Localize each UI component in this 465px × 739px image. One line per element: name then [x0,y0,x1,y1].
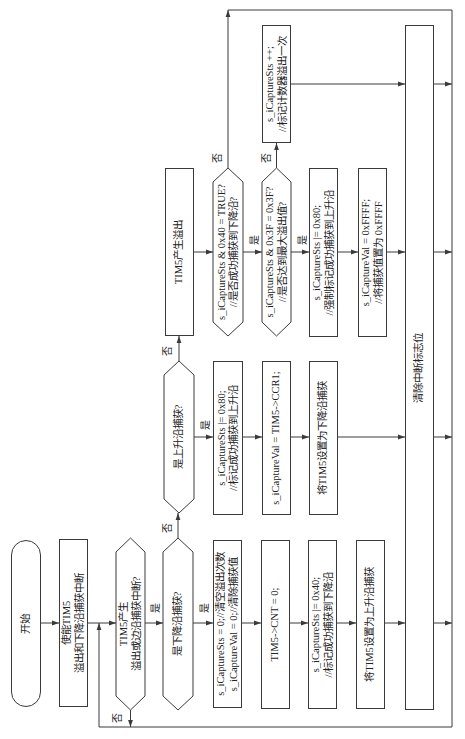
node-text: 将TIM5设置为下降沿捕获 [317,381,330,496]
node-text: TIM5->CNT = 0; [269,587,282,661]
node-reset-values: s_iCaptureSts = 0;//清空溢出次数 s_iCaptureVal… [213,540,242,708]
edge-label-no: 否 [212,152,224,164]
node-text: s_iCaptureVal = TIM5->CCR1; [270,371,283,505]
node-text: //标记计数器溢出一次 [277,36,290,132]
node-text: 清除中断标志位 [413,333,426,403]
edge-label-no: 否 [162,345,174,357]
node-set-falling: 将TIM5设置为下降沿捕获 [309,361,338,515]
edge-label-yes: 是 [297,234,309,246]
node-text: 溢出和下降沿捕获中断 [74,573,87,673]
node-text: 是下降沿捕获? [172,592,185,657]
node-mark-rising: s_iCaptureSts |= 0x80; //标记成功捕获到上升沿 [213,361,243,515]
edge-label-yes: 是 [150,602,162,614]
node-text: s_iCaptureSts & 0x40 = TRUE? [216,184,229,320]
node-increment-overflow: s_iCaptureSts ++; //标记计数器溢出一次 [262,25,291,143]
node-clear-flag: 清除中断标志位 [405,25,434,710]
node-text: //标记成功捕获到上升沿 [228,385,241,491]
node-text: s_iCaptureSts = 0;//清空溢出次数 [215,552,228,696]
node-start: 开始 [11,540,41,707]
edge-label-yes: 是 [199,602,211,614]
node-set-rising: 将TIM5设置为上升沿捕获 [356,540,385,709]
node-force-rising: s_iCaptureSts |= 0x80; //强制标记成功捕获到上升沿 [309,168,338,337]
flowchart-canvas: 开始 使能TIM5 溢出和下降沿捕获中断 TIM5产生 溢出或边沿捕获中断? 是… [0,0,465,739]
node-text: s_iCaptureSts |= 0x80; [311,205,324,301]
node-text: s_iCaptureSts |= 0x40; [310,577,323,673]
decision-irq-occurred: TIM5产生 溢出或边沿捕获中断? [116,538,145,710]
node-text: s_iCaptureSts ++; [264,46,277,122]
node-text: //标记成功捕获到下降沿 [323,572,336,678]
node-enable-interrupts: 使能TIM5 溢出和下降沿捕获中断 [59,539,88,707]
node-text: s_iCaptureVal = 0xFFFF; [360,199,373,306]
node-text: 使能TIM5 [61,601,74,646]
node-reset-counter: TIM5->CNT = 0; [261,540,290,709]
node-text: 将TIM5设置为上升沿捕获 [364,567,377,682]
node-text: 是上升沿捕获? [173,405,186,470]
decision-is-rising-edge: 是上升沿捕获? [164,361,194,513]
decision-check-falling-captured: s_iCaptureSts & 0x40 = TRUE? //是否成功捕获到下降… [213,168,243,336]
node-read-ccr1: s_iCaptureVal = TIM5->CCR1; [262,361,291,515]
node-text: //是否成功捕获到下降沿? [228,197,241,308]
node-text: //是否达到最大溢出值? [277,202,290,303]
node-overflow: TIM5产生溢出 [165,168,194,336]
node-text: s_iCaptureVal = 0;//清除捕获值 [228,557,241,692]
node-text: 开始 [20,614,33,634]
decision-check-max-overflow: s_iCaptureSts & 0x3F = 0x3F? //是否达到最大溢出值… [262,168,291,336]
edge-label-yes: 是 [249,234,261,246]
node-text: s_iCaptureSts & 0x3F = 0x3F? [264,187,277,318]
node-text: TIM5产生 [118,602,131,647]
node-mark-falling: s_iCaptureSts |= 0x40; //标记成功捕获到下降沿 [308,540,337,709]
node-text: //强制标记成功捕获到上升沿 [324,190,337,316]
edge-label-yes: 是 [200,419,212,431]
node-text: 溢出或边沿捕获中断? [131,577,144,672]
decision-is-falling-edge: 是下降沿捕获? [163,538,193,710]
edge-label-no: 否 [162,522,174,534]
node-text: TIM5产生溢出 [173,220,186,285]
node-set-max-value: s_iCaptureVal = 0xFFFF; //将捕获值置为 0xFFFF [358,168,387,337]
node-text: //将捕获值置为 0xFFFF [373,201,386,303]
node-text: s_iCaptureSts |= 0x80; [216,390,229,486]
edge-label-no: 否 [112,712,124,724]
edge-label-no: 否 [261,152,273,164]
